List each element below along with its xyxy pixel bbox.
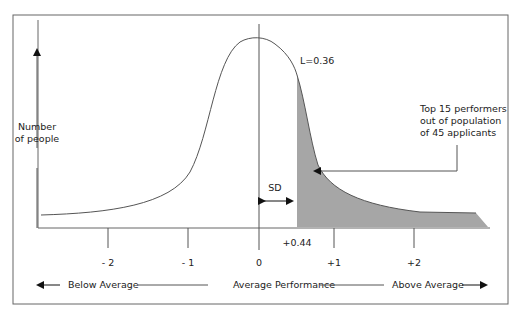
cutoff-label: +0.44 bbox=[282, 237, 311, 248]
callout-arrow-icon bbox=[315, 145, 457, 171]
sd-label: SD bbox=[268, 182, 281, 193]
distribution-diagram: Number of people - 2 - 1 0 +1 +2 +0.44 S… bbox=[0, 0, 524, 317]
y-axis-label-2: of people bbox=[15, 133, 60, 144]
y-axis-label-1: Number bbox=[18, 121, 56, 132]
tick-label: - 2 bbox=[102, 257, 115, 268]
callout-line-1: Top 15 performers bbox=[419, 103, 507, 114]
l-label: L=0.36 bbox=[300, 55, 334, 66]
above-average-label: Above Average bbox=[392, 279, 464, 290]
callout-line-2: out of population bbox=[420, 115, 501, 126]
selected-region bbox=[297, 75, 488, 227]
below-average-label: Below Average bbox=[68, 279, 139, 290]
callout-line-3: of 45 applicants bbox=[420, 127, 496, 138]
tick-label: +1 bbox=[327, 257, 341, 268]
tick-label: 0 bbox=[256, 257, 262, 268]
average-performance-label: Average Performance bbox=[233, 279, 335, 290]
tick-label: - 1 bbox=[182, 257, 195, 268]
tick-label: +2 bbox=[407, 257, 421, 268]
